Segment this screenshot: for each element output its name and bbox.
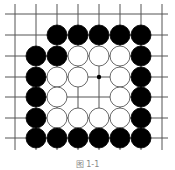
white-stone	[110, 46, 130, 66]
black-stone	[68, 25, 88, 45]
black-stone	[110, 128, 130, 148]
black-stone	[47, 46, 67, 66]
black-stone	[131, 108, 151, 128]
figure-caption: 图 1-1	[0, 158, 175, 169]
black-stone	[26, 128, 46, 148]
black-stone	[26, 46, 46, 66]
white-stone	[47, 87, 67, 107]
black-stone	[89, 25, 109, 45]
white-stone	[110, 87, 130, 107]
black-stone	[68, 128, 88, 148]
white-stone	[47, 108, 67, 128]
black-stone	[131, 87, 151, 107]
star-point	[97, 75, 101, 79]
white-stone	[89, 108, 109, 128]
white-stone	[68, 46, 88, 66]
go-board	[0, 0, 175, 170]
white-stone	[110, 108, 130, 128]
black-stone	[131, 67, 151, 87]
black-stone	[26, 108, 46, 128]
black-stone	[110, 25, 130, 45]
black-stone	[26, 87, 46, 107]
white-stone	[110, 67, 130, 87]
white-stone	[47, 67, 67, 87]
white-stone	[89, 46, 109, 66]
black-stone	[131, 25, 151, 45]
black-stone	[47, 128, 67, 148]
black-stone	[26, 67, 46, 87]
black-stone	[131, 128, 151, 148]
black-stone	[89, 128, 109, 148]
white-stone	[68, 67, 88, 87]
white-stone	[68, 108, 88, 128]
black-stone	[47, 25, 67, 45]
black-stone	[131, 46, 151, 66]
